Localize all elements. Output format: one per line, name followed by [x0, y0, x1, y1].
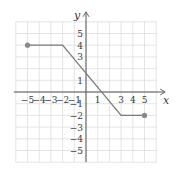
y-tick-label: 1: [77, 76, 83, 86]
closed-endpoint: [25, 43, 30, 48]
x-axis-label: x: [163, 94, 170, 107]
x-tick-label: 1: [95, 95, 101, 105]
y-tick-label: −1: [70, 99, 83, 109]
x-tick-label: 3: [118, 95, 124, 105]
function-graph: −5−4−3−2−113455431−1−2−3−4−5 x y: [0, 0, 180, 175]
x-tick-label: 5: [142, 95, 148, 105]
y-axis-label: y: [73, 9, 81, 22]
y-tick-label: 3: [77, 52, 83, 62]
y-tick-label: −5: [70, 146, 84, 156]
axes: [14, 12, 165, 162]
y-tick-label: 4: [77, 41, 83, 51]
closed-endpoint: [142, 113, 147, 118]
y-tick-label: −2: [70, 111, 83, 121]
y-tick-label: −4: [70, 134, 84, 144]
y-tick-label: −3: [70, 123, 84, 133]
y-tick-label: 5: [77, 29, 83, 39]
x-tick-label: 4: [130, 95, 136, 105]
